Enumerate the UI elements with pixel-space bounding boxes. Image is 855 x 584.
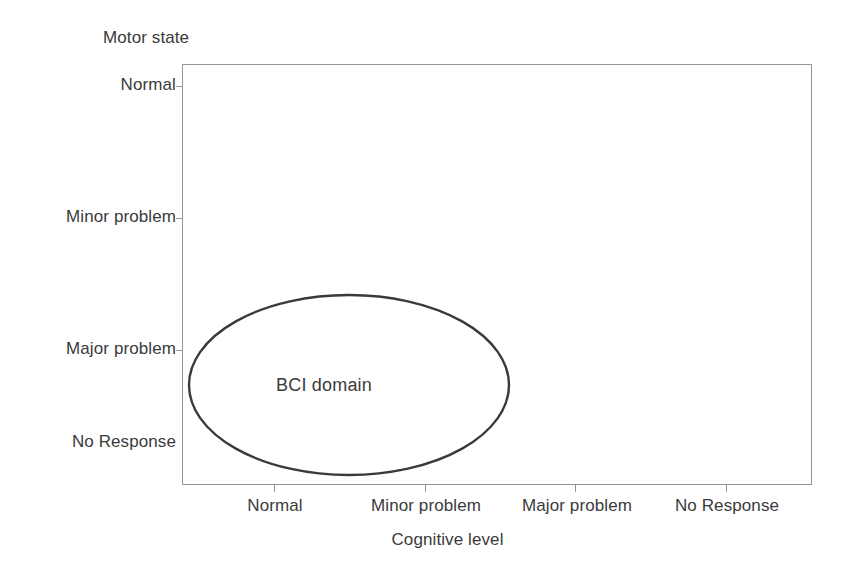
- chart-canvas: Motor state Normal Minor problem Major p…: [0, 0, 855, 584]
- x-axis-title-wrap: Cognitive level: [0, 530, 855, 550]
- y-tick-minor-problem: Minor problem: [0, 207, 176, 229]
- x-tick-label-normal: Normal: [247, 496, 302, 516]
- y-axis-title: Motor state: [103, 28, 189, 48]
- x-tick-mark-major-problem: [575, 485, 576, 492]
- y-tick-mark-normal: [176, 86, 183, 87]
- y-tick-major-problem: Major problem: [0, 339, 176, 361]
- y-tick-label: Minor problem: [66, 207, 176, 227]
- y-tick-label: No Response: [72, 432, 176, 452]
- x-tick-label-minor-problem: Minor problem: [371, 496, 481, 516]
- plot-area: [182, 64, 812, 485]
- y-tick-no-response: No Response: [0, 432, 176, 454]
- y-tick-label: Major problem: [66, 339, 176, 359]
- x-tick-mark-minor-problem: [425, 485, 426, 492]
- x-axis-title: Cognitive level: [391, 530, 503, 549]
- y-tick-normal: Normal: [0, 75, 176, 97]
- bci-domain-label: BCI domain: [276, 375, 372, 396]
- y-tick-label: Normal: [121, 75, 176, 95]
- x-tick-label-no-response: No Response: [675, 496, 779, 516]
- x-tick-label-major-problem: Major problem: [522, 496, 632, 516]
- x-tick-mark-normal: [274, 485, 275, 492]
- y-tick-mark-major-problem: [176, 350, 183, 351]
- y-tick-mark-minor-problem: [176, 218, 183, 219]
- x-tick-mark-no-response: [726, 485, 727, 492]
